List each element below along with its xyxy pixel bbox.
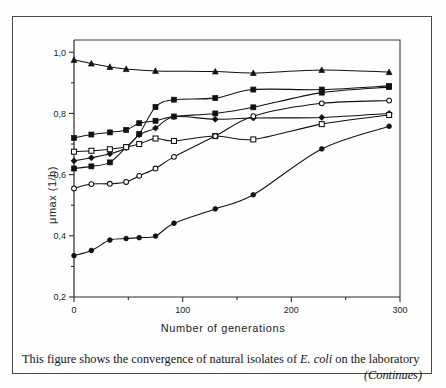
data-point-filled-diamond: [212, 116, 218, 122]
data-point-filled-circle: [72, 253, 77, 258]
series-line-isolate-G: [74, 126, 389, 255]
data-point-filled-circle: [89, 248, 94, 253]
series-line-isolate-C: [74, 86, 389, 169]
data-point-filled-circle: [137, 235, 142, 240]
caption-species-name: E. coli: [300, 352, 332, 366]
data-point-open-square: [137, 142, 142, 147]
x-axis-title: Number of generations: [0, 322, 446, 334]
x-tick-label: 0: [71, 305, 76, 315]
data-point-filled-square: [387, 83, 392, 88]
series-line-isolate-B: [74, 87, 389, 138]
caption-tail-text: on the laboratory: [332, 352, 419, 366]
data-point-filled-circle: [213, 206, 218, 211]
series-isolate-F: [72, 98, 392, 191]
axes-group: [69, 40, 400, 302]
data-point-filled-square: [72, 135, 77, 140]
data-point-filled-diamond: [88, 155, 94, 161]
data-point-filled-triangle: [71, 57, 77, 63]
data-point-filled-square: [319, 87, 324, 92]
series-line-isolate-F: [74, 101, 389, 189]
data-point-open-circle: [153, 166, 158, 171]
data-point-open-circle: [251, 114, 256, 119]
data-point-filled-circle: [153, 234, 158, 239]
data-point-filled-square: [107, 130, 112, 135]
series-isolate-C: [72, 83, 392, 171]
data-point-filled-square: [137, 121, 142, 126]
series-line-isolate-A: [74, 60, 389, 73]
y-tick-label: 0,2: [53, 292, 66, 302]
x-tick-label: 300: [392, 305, 407, 315]
data-point-open-circle: [124, 180, 129, 185]
figure-root: 0,20,40,60,81,00100200300 μmax (1/h) Num…: [0, 0, 446, 388]
data-point-filled-circle: [251, 192, 256, 197]
data-point-filled-square: [251, 105, 256, 110]
data-point-filled-square: [89, 164, 94, 169]
x-tick-label: 200: [284, 305, 299, 315]
data-point-open-square: [107, 147, 112, 152]
data-point-filled-circle: [172, 221, 177, 226]
data-point-filled-square: [153, 105, 158, 110]
x-tick-label: 100: [175, 305, 190, 315]
series-isolate-A: [71, 57, 392, 76]
series-isolate-G: [72, 124, 392, 258]
data-point-filled-circle: [124, 236, 129, 241]
data-point-filled-square: [251, 87, 256, 92]
data-point-filled-square: [171, 97, 176, 102]
data-point-filled-square: [107, 160, 112, 165]
data-point-filled-square: [213, 96, 218, 101]
data-point-filled-circle: [319, 147, 324, 152]
series-isolate-D: [71, 110, 392, 163]
data-point-open-circle: [172, 154, 177, 159]
data-point-open-circle: [319, 101, 324, 106]
caption-main-text: This figure shows the convergence of nat…: [22, 352, 300, 366]
y-tick-label: 0,4: [53, 231, 66, 241]
y-axis-title: μmax (1/h): [46, 166, 58, 224]
data-point-open-square: [72, 149, 77, 154]
data-point-open-circle: [72, 186, 77, 191]
data-point-open-circle: [213, 134, 218, 139]
data-point-open-circle: [107, 181, 112, 186]
data-point-filled-diamond: [319, 114, 325, 120]
plot-frame: [74, 40, 400, 297]
data-point-open-circle: [387, 98, 392, 103]
y-tick-label: 1,0: [53, 48, 66, 58]
data-point-filled-square: [213, 111, 218, 116]
data-point-open-square: [387, 112, 392, 117]
figure-caption: This figure shows the convergence of nat…: [22, 352, 422, 384]
data-point-open-circle: [89, 182, 94, 187]
plot-area: 0,20,40,60,81,00100200300 μmax (1/h): [0, 0, 446, 340]
y-tick-label: 0,8: [53, 109, 66, 119]
chart-svg: 0,20,40,60,81,00100200300 μmax (1/h): [0, 0, 446, 340]
data-point-filled-circle: [387, 124, 392, 129]
data-point-open-circle: [137, 173, 142, 178]
data-point-filled-square: [124, 127, 129, 132]
data-point-filled-square: [89, 132, 94, 137]
data-point-open-square: [319, 122, 324, 127]
data-point-filled-diamond: [71, 158, 77, 164]
data-point-filled-square: [72, 166, 77, 171]
data-point-open-square: [251, 137, 256, 142]
data-point-open-square: [89, 148, 94, 153]
data-point-filled-square: [153, 118, 158, 123]
series-line-isolate-E: [74, 115, 389, 152]
data-point-open-square: [153, 136, 158, 141]
data-point-open-square: [171, 138, 176, 143]
series-group: [71, 57, 392, 258]
data-point-filled-circle: [107, 238, 112, 243]
data-point-filled-diamond: [153, 125, 159, 131]
series-isolate-B: [72, 85, 392, 141]
caption-continues: (Continues): [22, 368, 422, 383]
data-point-open-square: [124, 145, 129, 150]
